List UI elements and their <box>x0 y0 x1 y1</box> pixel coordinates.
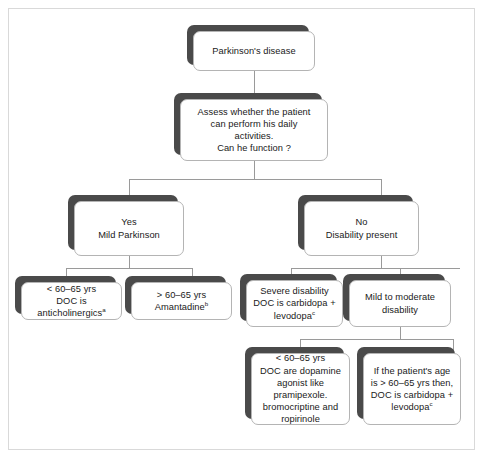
node-anticholinergics[interactable]: < 60–65 yrsDOC is anticholinergicsa <box>21 282 122 320</box>
connector-assess-down <box>254 161 255 179</box>
node-label: Parkinson's disease <box>212 45 295 57</box>
node-label: No Disability present <box>326 216 398 240</box>
node-parkinsons-disease[interactable]: Parkinson's disease <box>193 31 315 71</box>
connector-mild-moderate-down <box>400 327 401 339</box>
node-severe-disability[interactable]: Severe disabilityDOC is carbidopa +levod… <box>246 280 343 327</box>
connector-level4-bar <box>300 339 453 340</box>
node-card: No Disability present <box>304 201 419 256</box>
connector-level2-bar <box>129 179 381 180</box>
connector-yes-bar <box>66 268 192 269</box>
node-label: Mild to moderate disability <box>365 291 435 315</box>
node-no-disability-present[interactable]: No Disability present <box>304 201 419 256</box>
node-label: If the patient's ageis > 60–65 yrs then,… <box>371 365 453 414</box>
node-yes-mild-parkinson[interactable]: Yes Mild Parkinson <box>74 201 184 256</box>
footnote-marker: a <box>102 306 106 313</box>
node-older-carbidopa-levodopa[interactable]: If the patient's ageis > 60–65 yrs then,… <box>363 353 461 425</box>
flowchart-canvas: Parkinson's disease Assess whether the p… <box>0 0 485 460</box>
node-dopamine-agonist[interactable]: < 60–65 yrs DOC are dopamine agonist lik… <box>251 353 350 425</box>
node-label: < 60–65 yrsDOC is anticholinergicsa <box>27 283 116 320</box>
node-assess-function[interactable]: Assess whether the patient can perform h… <box>180 99 328 161</box>
connector-yes-down <box>129 256 130 268</box>
node-mild-to-moderate-disability[interactable]: Mild to moderate disability <box>349 280 451 327</box>
footnote-marker: b <box>205 300 209 307</box>
node-card: Severe disabilityDOC is carbidopa +levod… <box>246 280 343 327</box>
node-card: > 60–65 yrsAmantadineb <box>131 282 232 320</box>
node-card: < 60–65 yrsDOC is anticholinergicsa <box>21 282 122 320</box>
node-label: Assess whether the patient can perform h… <box>198 106 311 155</box>
node-card: < 60–65 yrs DOC are dopamine agonist lik… <box>251 353 350 425</box>
footnote-marker: c <box>429 400 432 407</box>
node-card: If the patient's ageis > 60–65 yrs then,… <box>363 353 461 425</box>
node-label: < 60–65 yrs DOC are dopamine agonist lik… <box>257 352 344 425</box>
connector-no-down <box>381 256 382 268</box>
connector-no-bar <box>291 268 460 269</box>
node-card: Yes Mild Parkinson <box>74 201 184 256</box>
node-amantadine[interactable]: > 60–65 yrsAmantadineb <box>131 282 232 320</box>
node-card: Assess whether the patient can perform h… <box>180 99 328 161</box>
node-card: Parkinson's disease <box>193 31 315 71</box>
node-label: > 60–65 yrsAmantadineb <box>155 289 209 313</box>
footnote-marker: c <box>312 309 315 316</box>
node-card: Mild to moderate disability <box>349 280 451 327</box>
node-label: Yes Mild Parkinson <box>98 216 160 240</box>
node-label: Severe disabilityDOC is carbidopa +levod… <box>253 285 335 322</box>
